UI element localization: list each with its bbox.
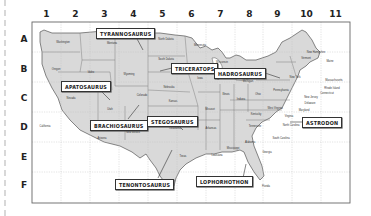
state-label-texas: Texas bbox=[180, 155, 187, 158]
dino-label-hadrosaurus[interactable]: HADROSAURUS bbox=[214, 68, 266, 79]
state-label-oregon: Oregon bbox=[52, 68, 61, 71]
state-label-new-york: New York bbox=[290, 76, 301, 79]
state-label-rhode-island: Rhode Island bbox=[324, 87, 339, 90]
state-label-california: California bbox=[40, 125, 51, 128]
dino-label-brachiosaurus[interactable]: BRACHIOSAURUS bbox=[90, 120, 148, 131]
state-label-south-dakota: South Dakota bbox=[158, 58, 174, 61]
state-label-illinois: Illinois bbox=[222, 93, 229, 96]
state-label-new-hampshire: New Hampshire bbox=[307, 51, 325, 54]
state-label-maine: Maine bbox=[326, 60, 333, 63]
state-label-utah: Utah bbox=[107, 108, 112, 111]
state-label-west-virginia: West Virginia bbox=[267, 107, 282, 110]
state-label-delaware: Delaware bbox=[305, 102, 316, 105]
state-label-connecticut: Connecticut bbox=[320, 92, 334, 95]
dino-label-astrodon[interactable]: ASTRODON bbox=[302, 117, 342, 128]
state-label-mississippi: Mississippi bbox=[227, 147, 240, 150]
state-label-ohio: Ohio bbox=[255, 93, 260, 96]
state-label-north-carolina: North Carolina bbox=[283, 124, 300, 127]
state-label-kentucky: Kentucky bbox=[251, 113, 262, 116]
state-label-missouri: Missouri bbox=[205, 108, 215, 111]
state-label-massachusetts: Massachusetts bbox=[325, 79, 342, 82]
dino-label-lophorhothon[interactable]: LOPHORHOTHON bbox=[196, 176, 253, 187]
state-label-florida: Florida bbox=[262, 185, 270, 188]
state-label-georgia: Georgia bbox=[262, 151, 271, 154]
state-label-wyoming: Wyoming bbox=[124, 73, 135, 76]
dino-label-triceratops[interactable]: TRICERATOPS bbox=[171, 63, 218, 74]
state-label-louisiana: Louisiana bbox=[211, 154, 222, 157]
state-label-maryland: Maryland bbox=[299, 109, 310, 112]
state-label-michigan: Michigan bbox=[243, 80, 253, 83]
state-label-kansas: Kansas bbox=[169, 100, 178, 103]
state-label-tennessee: Tennessee bbox=[249, 125, 262, 128]
dino-label-tenontosaurus[interactable]: TENONTOSAURUS bbox=[115, 179, 174, 190]
us-map bbox=[0, 0, 371, 216]
dino-label-stegosaurus[interactable]: STEGOSAURUS bbox=[147, 116, 198, 127]
state-label-north-dakota: North Dakota bbox=[158, 38, 173, 41]
state-label-iowa: Iowa bbox=[197, 77, 202, 80]
state-label-washington: Washington bbox=[56, 41, 70, 44]
dino-label-apatosaurus[interactable]: APATOSAURUS bbox=[61, 81, 111, 92]
state-label-arkansas: Arkansas bbox=[206, 127, 217, 130]
state-label-idaho: Idaho bbox=[88, 71, 95, 74]
state-label-vermont: Vermont bbox=[301, 57, 311, 60]
state-label-nevada: Nevada bbox=[67, 97, 76, 100]
state-label-minnesota: Minnesota bbox=[194, 44, 206, 47]
state-label-virginia: Virginia bbox=[285, 115, 294, 118]
state-label-nebraska: Nebraska bbox=[163, 86, 174, 89]
state-label-new-jersey: New Jersey bbox=[304, 96, 318, 99]
dino-label-tyrannosaurus[interactable]: TYRANNOSAURUS bbox=[96, 28, 155, 39]
state-label-colorado: Colorado bbox=[137, 94, 148, 97]
state-label-south-carolina: South Carolina bbox=[272, 137, 289, 140]
state-label-arizona: Arizona bbox=[98, 137, 107, 140]
state-label-montana: Montana bbox=[107, 42, 117, 45]
state-label-alabama: Alabama bbox=[245, 141, 255, 144]
state-label-indiana: Indiana bbox=[237, 98, 246, 101]
state-label-pennsylvania: Pennsylvania bbox=[273, 89, 288, 92]
